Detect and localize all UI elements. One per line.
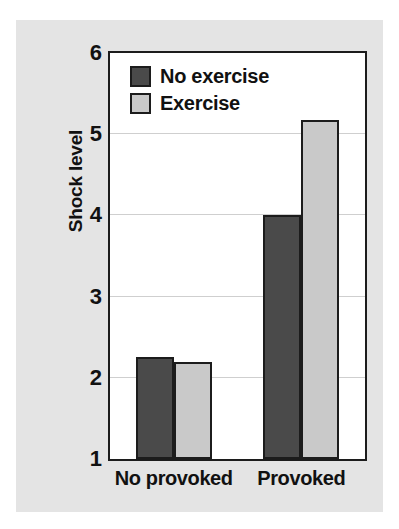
y-tick-label: 4 — [74, 202, 102, 228]
y-tick-label: 5 — [74, 121, 102, 147]
legend-item: Exercise — [130, 92, 269, 115]
plot-area: No exerciseExercise — [108, 51, 367, 461]
bar-provoked-no-exercise — [263, 215, 301, 459]
y-axis-tick-labels: 123456 — [68, 51, 102, 461]
x-axis-tick-labels: No provokedProvoked — [108, 467, 367, 501]
chart-figure: Shock level 123456 No exerciseExercise N… — [16, 20, 383, 512]
x-tick-label: Provoked — [257, 467, 345, 490]
legend-swatch-icon — [130, 66, 151, 87]
bar-provoked-exercise — [301, 120, 339, 459]
y-tick-label: 6 — [74, 40, 102, 66]
legend-label: Exercise — [160, 92, 240, 115]
legend-label: No exercise — [160, 65, 269, 88]
legend-item: No exercise — [130, 65, 269, 88]
y-tick-label: 3 — [74, 284, 102, 310]
x-tick-label: No provoked — [115, 467, 233, 490]
legend-swatch-icon — [130, 93, 151, 114]
y-tick-label: 2 — [74, 365, 102, 391]
chart-legend: No exerciseExercise — [130, 65, 269, 119]
y-tick-label: 1 — [74, 446, 102, 472]
bar-no-provoked-no-exercise — [136, 357, 174, 459]
bar-no-provoked-exercise — [174, 362, 212, 459]
